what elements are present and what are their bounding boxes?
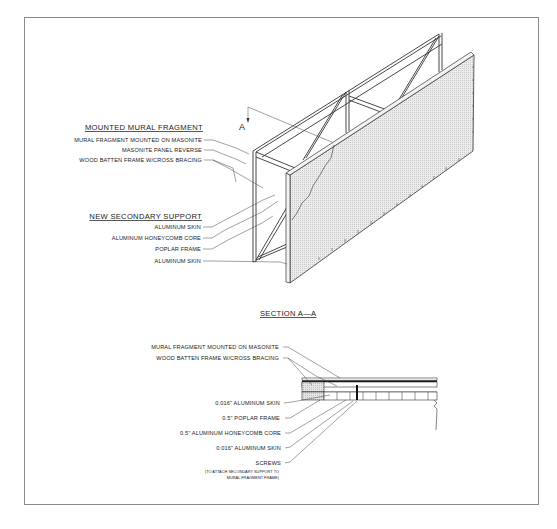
heading-new-secondary-support: NEW SECONDARY SUPPORT	[89, 212, 202, 221]
callout-label: 0.5" POPLAR FRAME	[222, 415, 280, 421]
callout-label: WOOD BATTEN FRAME W/CROSS BRACING	[79, 157, 202, 163]
screws-note-line-1: (TO ATTACH SECONDARY SUPPORT TO	[205, 469, 279, 474]
callout-label: MURAL FRAGMENT MOUNTED ON MASONITE	[74, 137, 202, 143]
callout-label: SCREWS	[256, 460, 282, 466]
section-marker-top: A	[239, 122, 245, 132]
callout-label: POPLAR FRAME	[155, 246, 201, 252]
isometric-view: A A	[239, 33, 474, 283]
secondary-support-panel	[286, 52, 474, 283]
callout-label: MASONITE PANEL REVERSE	[122, 147, 202, 153]
callout-label: ALUMINUM SKIN	[155, 224, 201, 230]
screws-note-line-2: MURAL FRAGMENT FRAME)	[227, 475, 280, 480]
callout-group-mounted-mural-fragment: MOUNTED MURAL FRAGMENT MURAL FRAGMENT MO…	[74, 123, 263, 188]
callout-label: MURAL FRAGMENT MOUNTED ON MASONITE	[151, 344, 279, 350]
section-title: SECTION A—A	[260, 309, 317, 318]
section-view	[302, 378, 437, 430]
aluminum-skin-face	[290, 55, 474, 283]
screw	[356, 385, 358, 400]
technical-drawing: A A	[0, 0, 557, 529]
callout-label: ALUMINUM HONEYCOMB CORE	[112, 235, 201, 241]
callout-group-new-secondary-support: NEW SECONDARY SUPPORT ALUMINUM SKIN ALUM…	[89, 195, 287, 264]
callout-label: 0.5" ALUMINUM HONEYCOMB CORE	[180, 430, 281, 436]
callout-label: WOOD BATTEN FRAME W/CROSS BRACING	[156, 355, 279, 361]
section-callouts: MURAL FRAGMENT MOUNTED ON MASONITE WOOD …	[151, 344, 357, 480]
callout-label: 0.016" ALUMINUM SKIN	[216, 445, 281, 451]
callout-label: ALUMINUM SKIN	[155, 258, 201, 264]
heading-mounted-mural-fragment: MOUNTED MURAL FRAGMENT	[85, 123, 203, 132]
drawing-sheet: A A	[0, 0, 557, 529]
callout-label: 0.016" ALUMINUM SKIN	[215, 400, 280, 406]
